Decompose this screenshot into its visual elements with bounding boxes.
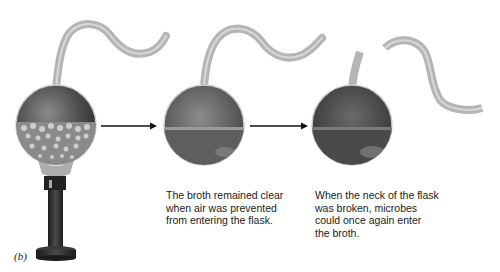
broken-flask: [308, 40, 482, 168]
cloudy-broth: [308, 127, 398, 168]
caption-broken-neck: When the neck of the flask was broken, m…: [315, 189, 445, 239]
arrow-2-to-3: [250, 123, 308, 130]
intact-flask: [160, 29, 322, 168]
caption-clear-broth: The broth remained clear when air was pr…: [166, 189, 286, 227]
clear-broth: [160, 127, 250, 168]
panel-label: (b): [14, 250, 27, 262]
boiling-broth: [10, 122, 105, 172]
broken-neck-stub: [352, 52, 360, 88]
arrow-1-to-2: [101, 123, 157, 130]
heated-flask: [10, 24, 166, 177]
detached-neck: [385, 40, 482, 110]
bunsen-burner: [36, 176, 76, 261]
swan-neck: [56, 24, 166, 88]
swan-neck: [204, 29, 322, 88]
